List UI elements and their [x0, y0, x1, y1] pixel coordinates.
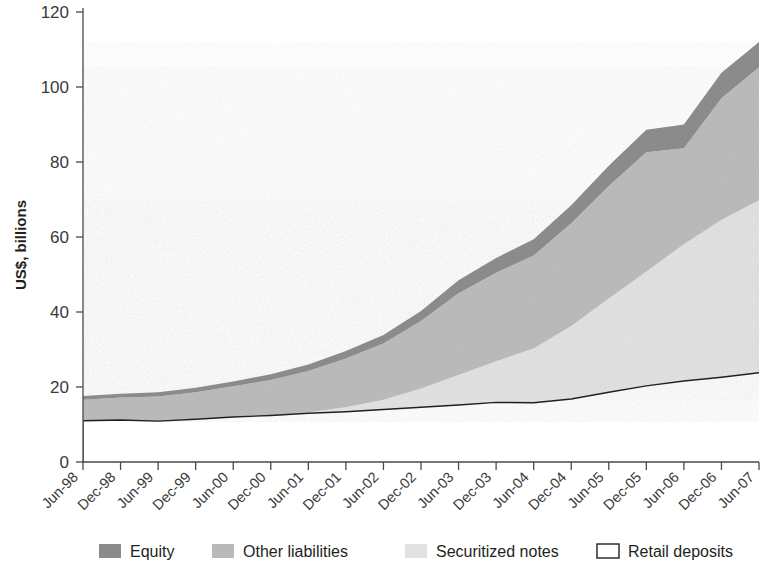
x-tick-label: Jun-99 — [114, 469, 157, 512]
x-tick-label: Jun-02 — [339, 469, 382, 512]
y-tick-label: 0 — [60, 453, 69, 472]
x-tick-label: Dec-98 — [74, 469, 118, 513]
x-tick-label: Jun-05 — [564, 469, 607, 512]
x-tick-label: Dec-06 — [675, 469, 719, 513]
x-tick-label: Dec-02 — [375, 469, 419, 513]
legend-swatch-retail-deposits — [597, 544, 619, 558]
chart-canvas: US$, billions 020406080100120 Jun-98Dec-… — [0, 0, 760, 574]
y-tick-label: 20 — [50, 378, 69, 397]
legend-label-other-liabilities: Other liabilities — [243, 543, 348, 560]
legend-swatch-securitized-notes — [405, 544, 427, 558]
x-tick-label: Jun-04 — [489, 469, 532, 512]
x-tick-label: Jun-01 — [264, 469, 307, 512]
stacked-area-chart: US$, billions 020406080100120 Jun-98Dec-… — [0, 0, 760, 574]
x-tick-label: Jun-06 — [639, 469, 682, 512]
y-tick-label: 120 — [41, 3, 69, 22]
legend-swatch-other-liabilities — [212, 544, 234, 558]
y-tick-label: 80 — [50, 153, 69, 172]
x-tick-label: Dec-01 — [300, 469, 344, 513]
x-tick-label: Jun-00 — [189, 469, 232, 512]
stacked-bands — [83, 42, 759, 462]
x-tick-label: Dec-05 — [600, 469, 644, 513]
x-tick-label: Dec-04 — [525, 469, 569, 513]
y-axis-title-text: US$, billions — [12, 200, 29, 290]
y-tick-label: 60 — [50, 228, 69, 247]
legend-label-equity: Equity — [130, 543, 174, 560]
chart-legend: EquityOther liabilitiesSecuritized notes… — [99, 543, 733, 560]
legend-swatch-equity — [99, 544, 121, 558]
x-tick-label: Jun-98 — [38, 469, 81, 512]
x-tick-label: Dec-99 — [149, 469, 193, 513]
x-tick-label: Dec-00 — [225, 469, 269, 513]
x-tick-label: Jun-03 — [414, 469, 457, 512]
y-tick-label: 100 — [41, 78, 69, 97]
y-axis: 020406080100120 — [41, 3, 83, 472]
legend-label-securitized-notes: Securitized notes — [436, 543, 559, 560]
x-tick-label: Jun-07 — [714, 469, 757, 512]
y-tick-label: 40 — [50, 303, 69, 322]
legend-label-retail-deposits: Retail deposits — [628, 543, 733, 560]
x-axis: Jun-98Dec-98Jun-99Dec-99Jun-00Dec-00Jun-… — [38, 462, 759, 513]
y-axis-title: US$, billions — [12, 200, 29, 290]
x-tick-label: Dec-03 — [450, 469, 494, 513]
